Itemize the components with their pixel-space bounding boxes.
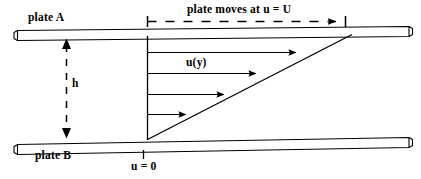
- velocity-profile-line: [148, 35, 353, 140]
- label-no-slip-u-equals-0: u = 0: [131, 161, 156, 173]
- velocity-arrows-group: [148, 53, 296, 115]
- label-plate-moves-at-u-equals-U: plate moves at u = U: [187, 4, 291, 16]
- label-plate-a: plate A: [28, 12, 64, 24]
- plate-b-shape: [14, 138, 413, 155]
- plate-a-shape: [14, 27, 413, 41]
- couette-flow-diagram: plate A plate B plate moves at u = U u(y…: [0, 0, 421, 179]
- label-velocity-profile-uy: u(y): [186, 57, 207, 69]
- plate-motion-arrow: [148, 16, 346, 27]
- label-plate-b: plate B: [35, 150, 71, 162]
- gap-height-arrow: [62, 39, 71, 139]
- gap-arrowhead-down: [62, 128, 71, 139]
- label-gap-height-h: h: [72, 78, 79, 90]
